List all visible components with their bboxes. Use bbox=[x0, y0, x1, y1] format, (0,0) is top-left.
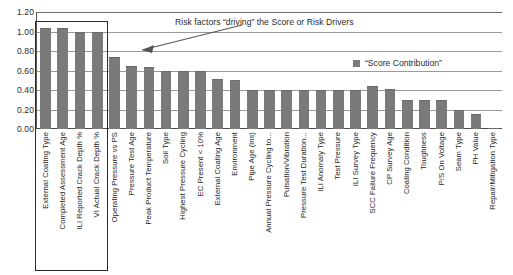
bar[interactable] bbox=[488, 128, 499, 129]
bar-slot[interactable] bbox=[433, 12, 450, 129]
bar[interactable] bbox=[402, 100, 413, 129]
x-category-label: ILI Reported Crack Depth % bbox=[76, 132, 84, 230]
bar-slot[interactable] bbox=[485, 12, 502, 129]
x-label-slot: Completed Assessment Age bbox=[54, 130, 71, 273]
bar[interactable] bbox=[471, 114, 482, 129]
bar[interactable] bbox=[109, 57, 120, 129]
x-category-label: Test Pressure bbox=[334, 132, 342, 180]
x-label-slot: Seam Type bbox=[450, 130, 467, 273]
bar-slot[interactable] bbox=[416, 12, 433, 129]
bar[interactable] bbox=[299, 90, 310, 129]
bar-slot[interactable] bbox=[37, 12, 54, 129]
x-category-label: Toughness bbox=[420, 132, 428, 170]
x-label-slot: CP Survey Age bbox=[381, 130, 398, 273]
bar-slot[interactable] bbox=[467, 12, 484, 129]
bar-slot[interactable] bbox=[450, 12, 467, 129]
y-tick-label: 1.00 bbox=[2, 28, 34, 37]
bar-slot[interactable] bbox=[381, 12, 398, 129]
bar-slot[interactable] bbox=[364, 12, 381, 129]
bar-slot[interactable] bbox=[261, 12, 278, 129]
bar-slot[interactable] bbox=[140, 12, 157, 129]
x-category-label: EC Present < 10% bbox=[197, 132, 205, 196]
bar-slot[interactable] bbox=[399, 12, 416, 129]
x-label-slot: ILI Reported Crack Depth % bbox=[71, 130, 88, 273]
x-category-label: Coating Condition bbox=[403, 132, 411, 194]
bar-slot[interactable] bbox=[123, 12, 140, 129]
bars-layer bbox=[37, 12, 502, 129]
bar[interactable] bbox=[281, 90, 292, 129]
x-label-slot: Pulsation/Vibration bbox=[278, 130, 295, 273]
bar-slot[interactable] bbox=[313, 12, 330, 129]
x-label-slot: Repair/Mitigation Type bbox=[485, 130, 502, 273]
bar[interactable] bbox=[247, 90, 258, 129]
y-tick-label: 1.20 bbox=[2, 8, 34, 17]
bar-slot[interactable] bbox=[175, 12, 192, 129]
bar-slot[interactable] bbox=[54, 12, 71, 129]
bar[interactable] bbox=[367, 86, 378, 129]
x-category-label: Highest Pressure Cycling bbox=[179, 132, 187, 220]
legend-swatch-score-contribution bbox=[353, 60, 360, 67]
bar[interactable] bbox=[92, 32, 103, 130]
bar[interactable] bbox=[75, 32, 86, 130]
x-category-label: Peak Product Temperature bbox=[145, 132, 153, 225]
bar-slot[interactable] bbox=[192, 12, 209, 129]
x-category-label: ILI Anomaly Type bbox=[317, 132, 325, 192]
x-label-slot: Annual Pressure Cycling to... bbox=[261, 130, 278, 273]
bar-slot[interactable] bbox=[106, 12, 123, 129]
y-tick-label: 0.60 bbox=[2, 67, 34, 76]
bar-slot[interactable] bbox=[278, 12, 295, 129]
bar[interactable] bbox=[126, 66, 137, 129]
risk-driver-bar-chart: 1.201.000.800.600.400.200.00 Risk factor… bbox=[0, 0, 513, 275]
x-label-slot: Pressure Test Duration... bbox=[295, 130, 312, 273]
legend: “Score Contribution” bbox=[353, 58, 442, 68]
x-category-label: External Coating Age bbox=[214, 132, 222, 205]
x-category-label: Environment bbox=[231, 132, 239, 176]
x-category-label: CP Survey Age bbox=[386, 132, 394, 185]
x-category-label: PH Value bbox=[472, 132, 480, 164]
bar[interactable] bbox=[195, 71, 206, 130]
bar-slot[interactable] bbox=[295, 12, 312, 129]
y-axis: 1.201.000.800.600.400.200.00 bbox=[0, 12, 34, 129]
bar[interactable] bbox=[350, 90, 361, 129]
bar[interactable] bbox=[57, 28, 68, 129]
x-label-slot: Highest Pressure Cycling bbox=[175, 130, 192, 273]
bar[interactable] bbox=[230, 80, 241, 129]
bar[interactable] bbox=[385, 89, 396, 129]
bar-slot[interactable] bbox=[89, 12, 106, 129]
bar[interactable] bbox=[333, 90, 344, 129]
x-category-label: SCC Failure Frequency bbox=[369, 132, 377, 213]
bar[interactable] bbox=[454, 110, 465, 130]
x-label-slot: PH Value bbox=[467, 130, 484, 273]
x-category-label: Annual Pressure Cycling to... bbox=[265, 132, 273, 233]
bar[interactable] bbox=[212, 79, 223, 129]
bar[interactable] bbox=[436, 100, 447, 129]
bar[interactable] bbox=[178, 71, 189, 130]
bar-slot[interactable] bbox=[158, 12, 175, 129]
x-category-label: Pressure Test Age bbox=[128, 132, 136, 195]
x-axis-category-labels: External Coating TypeCompleted Assessmen… bbox=[37, 130, 502, 273]
x-category-label: Pipe Age (ins) bbox=[248, 132, 256, 181]
bar[interactable] bbox=[40, 28, 51, 129]
annotation-label: Risk factors “driving” the Score or Risk… bbox=[175, 17, 354, 27]
x-label-slot: Peak Product Temperature bbox=[140, 130, 157, 273]
x-label-slot: Toughness bbox=[416, 130, 433, 273]
y-tick-label: 0.20 bbox=[2, 106, 34, 115]
x-category-label: VI Actual Crack Depth % bbox=[93, 132, 101, 217]
bar[interactable] bbox=[144, 67, 155, 129]
bar-slot[interactable] bbox=[71, 12, 88, 129]
x-category-label: ILI Survey Type bbox=[352, 132, 360, 186]
y-tick-label: 0.00 bbox=[2, 125, 34, 134]
bar-slot[interactable] bbox=[226, 12, 243, 129]
bar[interactable] bbox=[419, 100, 430, 129]
x-label-slot: ILI Anomaly Type bbox=[313, 130, 330, 273]
x-label-slot: Test Pressure bbox=[330, 130, 347, 273]
bar[interactable] bbox=[264, 90, 275, 129]
bar-slot[interactable] bbox=[330, 12, 347, 129]
bar-slot[interactable] bbox=[209, 12, 226, 129]
bar-slot[interactable] bbox=[244, 12, 261, 129]
x-label-slot: External Coating Age bbox=[209, 130, 226, 273]
bar[interactable] bbox=[316, 90, 327, 129]
bar-slot[interactable] bbox=[347, 12, 364, 129]
bar[interactable] bbox=[161, 71, 172, 130]
y-tick-label: 0.80 bbox=[2, 47, 34, 56]
